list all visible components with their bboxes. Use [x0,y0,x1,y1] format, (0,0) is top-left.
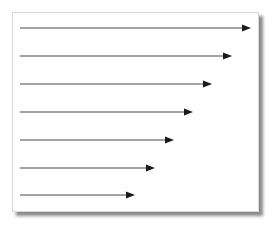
arrow-1 [20,25,251,32]
arrowhead-icon [165,137,174,144]
arrow-6 [20,165,155,172]
arrow-4 [20,109,193,116]
arrowhead-icon [126,192,135,199]
arrowhead-icon [184,109,193,116]
arrow-7 [20,192,135,199]
arrow-2 [20,53,232,60]
arrows-group [0,0,275,227]
arrow-5 [20,137,174,144]
arrowhead-icon [146,165,155,172]
arrowhead-icon [242,25,251,32]
arrowhead-icon [203,81,212,88]
arrow-3 [20,81,212,88]
arrowhead-icon [223,53,232,60]
diagram-canvas [0,0,275,227]
